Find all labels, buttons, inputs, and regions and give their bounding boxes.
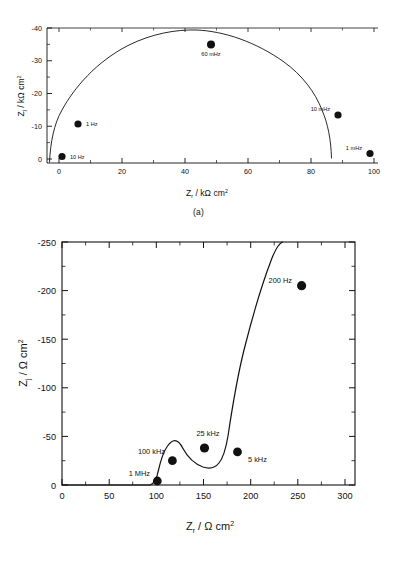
y-axis-unit: / Ω cm <box>17 343 29 378</box>
data-point[interactable] <box>200 443 209 452</box>
y-tick-label: -200 <box>38 286 56 296</box>
chart-panel-b: -250 -200 -150 -100 -50 0 0 50 100 150 2… <box>0 232 397 579</box>
x-tick-label: 0 <box>57 167 61 176</box>
data-point[interactable] <box>207 41 215 49</box>
plot-a-data-points <box>58 41 373 161</box>
plot-a-y-axis-title: Zj / kΩ cm2 <box>16 75 27 116</box>
plot-b-y-axis-title: Zj / Ω cm2 <box>17 339 32 386</box>
point-label-200hz: 200 Hz <box>269 276 293 285</box>
point-label-1hz: 1 Hz <box>86 121 98 127</box>
data-point[interactable] <box>366 150 373 157</box>
y-tick-label: 0 <box>38 155 42 164</box>
plot-b-y-tick-labels: -250 -200 -150 -100 -50 0 <box>38 238 56 491</box>
y-tick-label: -20 <box>32 89 42 98</box>
plot-a-data-curve <box>50 30 332 162</box>
y-axis-superscript: 2 <box>17 339 24 343</box>
svg-text:Zj / Ω cm2: Zj / Ω cm2 <box>17 339 32 386</box>
x-tick-label: 150 <box>196 491 211 501</box>
y-axis-superscript: 2 <box>16 75 22 78</box>
x-tick-label: 60 <box>244 167 252 176</box>
x-tick-label: 300 <box>337 491 352 501</box>
x-axis-unit: / Ω cm <box>195 520 230 532</box>
x-tick-label: 200 <box>243 491 258 501</box>
y-tick-label: -10 <box>32 122 42 131</box>
x-axis-superscript: 2 <box>230 520 234 527</box>
y-tick-label: -100 <box>38 383 56 393</box>
chart-panel-a: -40 -30 -20 -10 0 0 20 40 60 80 100 Zj /… <box>0 0 397 232</box>
plot-a-y-tick-labels: -40 -30 -20 -10 0 <box>32 24 42 164</box>
data-point[interactable] <box>153 477 162 486</box>
point-label-5khz: 5 kHz <box>248 455 267 464</box>
panel-a-caption: (a) <box>0 207 397 217</box>
svg-text:Zj / kΩ cm2: Zj / kΩ cm2 <box>16 75 27 116</box>
plot-b-x-axis-title: Zr / Ω cm2 <box>186 520 234 534</box>
plot-a-svg: -40 -30 -20 -10 0 0 20 40 60 80 100 Zj /… <box>0 0 397 232</box>
data-point[interactable] <box>297 281 306 290</box>
point-label-60mhz: 60 mHz <box>201 51 220 57</box>
plot-b-x-tick-labels: 0 50 100 150 200 250 300 <box>59 491 352 501</box>
y-tick-label: -30 <box>32 56 42 65</box>
point-label-10hz: 10 Hz <box>70 154 85 160</box>
plot-b-data-curve <box>62 242 283 485</box>
point-label-1mhz: 1 mHz <box>346 145 362 151</box>
x-tick-label: 20 <box>118 167 126 176</box>
x-axis-superscript: 2 <box>225 188 228 194</box>
y-tick-label: 0 <box>51 481 56 491</box>
x-tick-label: 250 <box>290 491 305 501</box>
plot-a-x-axis-title: Zr / kΩ cm2 <box>186 188 228 199</box>
plot-b-svg: -250 -200 -150 -100 -50 0 0 50 100 150 2… <box>0 232 397 579</box>
point-label-10mhz: 10 mHz <box>311 106 330 112</box>
figure-nyquist-plots: -40 -30 -20 -10 0 0 20 40 60 80 100 Zj /… <box>0 0 397 579</box>
plot-a-point-labels: 10 Hz 1 Hz 60 mHz 10 mHz 1 mHz <box>70 51 362 160</box>
data-point[interactable] <box>58 153 65 160</box>
point-label-25khz: 25 kHz <box>196 429 219 438</box>
data-point[interactable] <box>74 120 81 127</box>
x-tick-label: 100 <box>368 167 380 176</box>
x-tick-label: 0 <box>59 491 64 501</box>
y-tick-label: -40 <box>32 24 42 33</box>
y-axis-unit: / kΩ cm <box>16 78 26 110</box>
x-axis-unit: / kΩ cm <box>193 188 225 198</box>
data-point[interactable] <box>334 111 341 118</box>
plot-b-point-labels: 1 MHz 100 kHz 25 kHz 5 kHz 200 Hz <box>129 276 293 478</box>
point-label-100khz: 100 kHz <box>138 447 165 456</box>
plot-b-data-points <box>153 281 306 485</box>
x-tick-label: 40 <box>181 167 189 176</box>
data-point[interactable] <box>233 448 242 457</box>
x-tick-label: 100 <box>149 491 164 501</box>
y-tick-label: -150 <box>38 335 56 345</box>
y-tick-label: -50 <box>43 432 56 442</box>
point-label-1mhz: 1 MHz <box>129 469 151 478</box>
x-tick-label: 50 <box>104 491 114 501</box>
data-point[interactable] <box>168 456 177 465</box>
y-tick-label: -250 <box>38 238 56 248</box>
plot-a-x-tick-labels: 0 20 40 60 80 100 <box>57 167 380 176</box>
plot-a-axes <box>47 28 378 163</box>
x-tick-label: 80 <box>307 167 315 176</box>
